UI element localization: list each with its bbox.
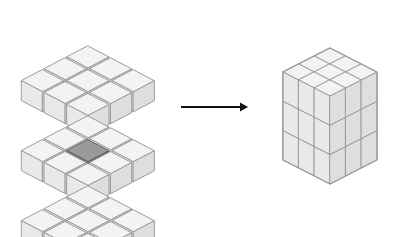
- cube-transformation-diagram: [0, 0, 411, 237]
- figure-root: [0, 0, 411, 237]
- assembled-cube: [283, 48, 377, 184]
